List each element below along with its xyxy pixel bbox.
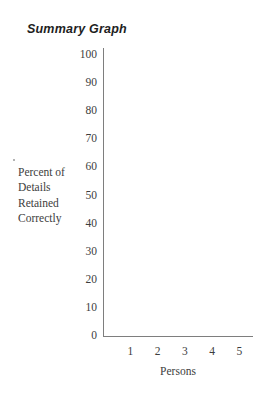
- x-tick-label: 1: [118, 345, 142, 358]
- y-axis-title-line: Correctly: [18, 211, 65, 226]
- page-speck-artifact: [13, 159, 15, 161]
- y-axis-title-line: Retained: [18, 196, 65, 211]
- summary-graph-figure: Summary Graph 1009080706050403020100 Per…: [0, 0, 270, 393]
- y-axis-tick-labels: 1009080706050403020100: [62, 0, 97, 393]
- x-axis-title: Persons: [103, 365, 253, 377]
- y-tick-label: 10: [62, 301, 97, 313]
- x-tick-label: 4: [200, 345, 224, 358]
- y-axis-title-line: Percent of: [18, 165, 65, 180]
- y-axis-title-line: Details: [18, 180, 65, 195]
- y-tick-label: 100: [62, 48, 97, 60]
- y-tick-label: 80: [62, 104, 97, 116]
- y-tick-label: 30: [62, 245, 97, 257]
- y-axis-title: Percent ofDetailsRetainedCorrectly: [18, 165, 65, 226]
- y-tick-label: 20: [62, 273, 97, 285]
- x-tick-label: 2: [146, 345, 170, 358]
- x-tick-label: 5: [227, 345, 251, 358]
- y-tick-label: 50: [62, 189, 97, 201]
- x-tick-label: 3: [173, 345, 197, 358]
- y-tick-label: 40: [62, 217, 97, 229]
- y-tick-label: 0: [62, 329, 97, 341]
- y-tick-label: 90: [62, 76, 97, 88]
- y-tick-label: 70: [62, 132, 97, 144]
- y-tick-label: 60: [62, 160, 97, 172]
- x-axis-line: [103, 336, 253, 337]
- x-axis-tick-labels: 12345: [103, 345, 253, 359]
- y-axis-line: [103, 48, 104, 337]
